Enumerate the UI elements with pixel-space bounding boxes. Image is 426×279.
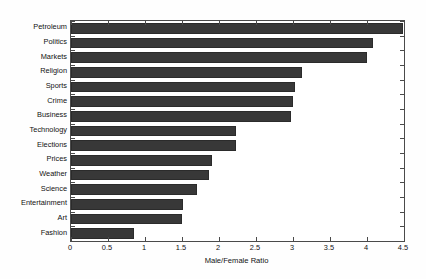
x-tick-mark — [145, 237, 146, 241]
y-tick-mark-right — [400, 212, 404, 213]
x-tick-mark-top — [404, 21, 405, 25]
y-tick-mark-right — [400, 50, 404, 51]
bar — [71, 67, 302, 78]
y-axis-label-religion: Religion — [0, 67, 67, 75]
x-tick-label: 3 — [290, 243, 294, 252]
y-tick-mark-right — [400, 182, 404, 183]
x-tick-mark — [404, 237, 405, 241]
x-tick-mark — [182, 237, 183, 241]
x-tick-label: 2 — [216, 243, 220, 252]
y-tick-mark-right — [400, 21, 404, 22]
bar-row — [71, 52, 404, 63]
y-tick-mark — [71, 109, 75, 110]
y-tick-mark-right — [400, 65, 404, 66]
y-tick-mark-right — [400, 241, 404, 242]
y-axis-label-technology: Technology — [0, 126, 67, 134]
x-tick-mark-top — [145, 21, 146, 25]
bar-row — [71, 184, 404, 195]
x-axis-tick-labels: 00.511.522.533.544.5 — [70, 243, 403, 255]
bar-series — [71, 21, 404, 241]
y-tick-mark-right — [400, 109, 404, 110]
y-axis-label-markets: Markets — [0, 53, 67, 61]
bar — [71, 111, 291, 122]
bar — [71, 140, 236, 151]
bar — [71, 52, 367, 63]
x-tick-label: 3.5 — [324, 243, 334, 252]
bar-row — [71, 111, 404, 122]
bar-row — [71, 82, 404, 93]
bar — [71, 126, 236, 137]
bar-row — [71, 140, 404, 151]
y-tick-mark — [71, 182, 75, 183]
bar-row — [71, 23, 404, 34]
x-axis-title: Male/Female Ratio — [70, 256, 403, 265]
bar — [71, 155, 212, 166]
y-tick-mark-right — [400, 197, 404, 198]
bar-row — [71, 38, 404, 49]
y-tick-mark — [71, 50, 75, 51]
y-tick-mark — [71, 124, 75, 125]
bar — [71, 82, 295, 93]
x-tick-label: 1 — [142, 243, 146, 252]
x-tick-mark — [108, 237, 109, 241]
bar-row — [71, 199, 404, 210]
bar-row — [71, 67, 404, 78]
y-axis-label-science: Science — [0, 185, 67, 193]
plot-area — [70, 20, 405, 242]
x-tick-label: 1.5 — [176, 243, 186, 252]
x-tick-label: 2.5 — [250, 243, 260, 252]
x-tick-mark — [219, 237, 220, 241]
y-tick-mark-right — [400, 36, 404, 37]
y-axis-label-weather: Weather — [0, 170, 67, 178]
y-axis-label-elections: Elections — [0, 141, 67, 149]
bar-row — [71, 170, 404, 181]
bar-row — [71, 155, 404, 166]
x-tick-mark-top — [330, 21, 331, 25]
bar — [71, 38, 373, 49]
y-tick-mark-right — [400, 124, 404, 125]
y-axis-label-prices: Prices — [0, 155, 67, 163]
bar — [71, 96, 293, 107]
y-axis-label-politics: Politics — [0, 38, 67, 46]
bar-row — [71, 228, 404, 239]
y-tick-mark — [71, 65, 75, 66]
x-tick-label: 4 — [364, 243, 368, 252]
bar — [71, 170, 209, 181]
y-tick-mark — [71, 168, 75, 169]
bar-row — [71, 96, 404, 107]
y-tick-mark-right — [400, 153, 404, 154]
y-tick-mark — [71, 94, 75, 95]
y-tick-mark — [71, 138, 75, 139]
y-tick-mark-right — [400, 226, 404, 227]
x-tick-mark — [293, 237, 294, 241]
y-axis-label-art: Art — [0, 214, 67, 222]
x-tick-label: 0 — [68, 243, 72, 252]
bar-row — [71, 214, 404, 225]
y-tick-mark-right — [400, 168, 404, 169]
y-tick-mark — [71, 197, 75, 198]
bar-chart-figure: PetroleumPoliticsMarketsReligionSportsCr… — [0, 0, 426, 279]
bar-row — [71, 126, 404, 137]
y-tick-mark — [71, 36, 75, 37]
y-tick-mark — [71, 153, 75, 154]
y-tick-mark — [71, 226, 75, 227]
y-axis-label-petroleum: Petroleum — [0, 23, 67, 31]
y-tick-mark-right — [400, 138, 404, 139]
x-tick-label: 4.5 — [398, 243, 408, 252]
x-tick-mark-top — [367, 21, 368, 25]
x-tick-mark — [256, 237, 257, 241]
y-axis-label-entertainment: Entertainment — [0, 199, 67, 207]
y-axis-label-sports: Sports — [0, 82, 67, 90]
y-tick-mark-right — [400, 80, 404, 81]
bar — [71, 23, 403, 34]
y-tick-mark — [71, 80, 75, 81]
y-tick-mark — [71, 21, 75, 22]
y-tick-mark — [71, 241, 75, 242]
y-tick-mark — [71, 212, 75, 213]
x-tick-mark — [367, 237, 368, 241]
bar — [71, 228, 134, 239]
x-tick-mark-top — [108, 21, 109, 25]
x-tick-mark-top — [256, 21, 257, 25]
y-tick-mark-right — [400, 94, 404, 95]
x-tick-mark-top — [182, 21, 183, 25]
